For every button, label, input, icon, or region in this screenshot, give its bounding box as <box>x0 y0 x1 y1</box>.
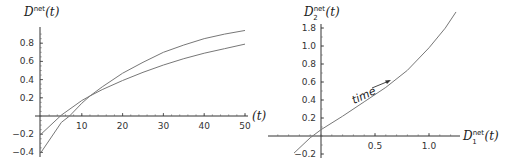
y-tick-label: 0.8 <box>302 59 317 69</box>
figure: Dnet(t) 0.80.60.40.2−0.2−0.4 1020304050 … <box>0 0 511 163</box>
left-chart: Dnet(t) 0.80.60.40.2−0.2−0.4 1020304050 … <box>12 5 266 157</box>
series-line <box>41 44 245 134</box>
y-tick-label: −0.4 <box>12 147 34 157</box>
y-tick-label: 0.2 <box>20 93 34 103</box>
y-tick-label: 0.8 <box>20 38 35 48</box>
right-y-axis-title: Dnet2(t) <box>303 5 340 22</box>
right-series <box>294 12 456 153</box>
right-x-axis-title: Dnet1(t) <box>462 129 499 146</box>
left-y-axis-title: Dnet(t) <box>23 5 60 19</box>
x-tick-label: 40 <box>198 121 210 131</box>
svg-text:Dnet1(t): Dnet1(t) <box>462 129 499 146</box>
y-tick-label: 0.2 <box>302 113 316 123</box>
x-tick-label: 20 <box>117 121 129 131</box>
x-tick-label: 30 <box>158 121 170 131</box>
time-annotation: time <box>350 80 391 107</box>
y-tick-label: 0.4 <box>20 75 35 85</box>
series-line <box>294 12 456 153</box>
y-tick-label: 0.6 <box>302 77 317 87</box>
x-tick-label: 50 <box>239 121 251 131</box>
y-tick-label: 1.8 <box>302 23 317 33</box>
series-line <box>41 30 245 152</box>
left-x-axis-title: (t) <box>252 109 267 123</box>
svg-text:Dnet(t): Dnet(t) <box>23 5 60 19</box>
y-tick-label: 0.4 <box>302 95 317 105</box>
x-tick-label: 10 <box>76 121 88 131</box>
right-chart: Dnet2(t) 1.81.00.80.60.40.2−0.2 0.51.0 D… <box>268 5 499 159</box>
left-y-ticks: 0.80.60.40.2−0.2−0.4 <box>12 34 43 157</box>
svg-text:Dnet2(t): Dnet2(t) <box>303 5 340 22</box>
x-tick-label: 1.0 <box>422 141 437 151</box>
y-tick-label: 1.0 <box>302 41 317 51</box>
y-tick-label: −0.2 <box>12 129 34 139</box>
y-tick-label: 0.6 <box>20 56 35 66</box>
left-series <box>41 30 245 152</box>
x-tick-label: 0.5 <box>368 141 382 151</box>
